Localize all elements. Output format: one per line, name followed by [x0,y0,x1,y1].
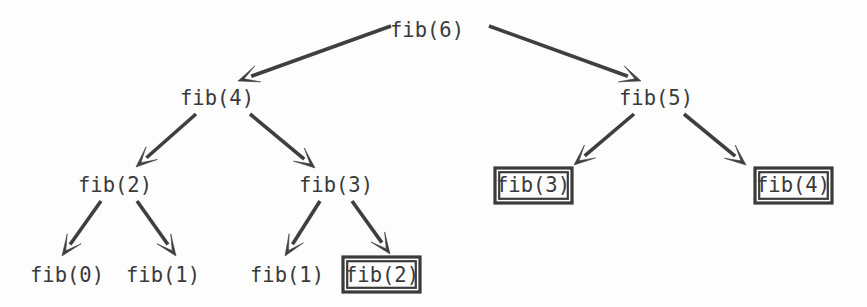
tree-edge [285,201,320,256]
edge-line [146,114,196,158]
recursion-tree-diagram: fib(6)fib(4)fib(5)fib(2)fib(3)fib(3)fib(… [0,0,867,307]
tree-edge [574,114,634,165]
tree-edge [684,114,746,165]
tree-edge [489,26,641,82]
tree-edge [136,114,196,167]
edge-line [70,201,101,245]
tree-node-label: fib(0) [30,263,104,287]
tree-node-label: fib(3) [299,173,373,197]
tree-node-label: fib(2) [345,263,419,287]
recursion-tree-canvas: fib(6)fib(4)fib(5)fib(2)fib(3)fib(3)fib(… [0,0,867,307]
edge-line [251,26,391,76]
tree-edge [238,26,391,82]
tree-node-label: fib(1) [126,263,200,287]
tree-edge [137,201,176,256]
tree-node-label: fib(2) [78,173,152,197]
tree-node-label: fib(4) [180,86,254,110]
tree-node-label: fib(4) [756,173,830,197]
edge-line [684,114,735,156]
edge-line [585,114,634,156]
edge-line [137,201,168,245]
edges-layer [62,26,746,256]
tree-node-label: fib(5) [619,86,693,110]
tree-edge [250,114,315,168]
tree-node-label: fib(6) [390,18,464,42]
edge-line [352,201,382,243]
tree-node-label: fib(3) [496,173,570,197]
edge-line [489,26,628,76]
edge-line [293,201,320,244]
edge-line [250,114,304,159]
tree-edge [352,201,390,254]
tree-edge [62,201,101,256]
tree-node-label: fib(1) [250,263,324,287]
